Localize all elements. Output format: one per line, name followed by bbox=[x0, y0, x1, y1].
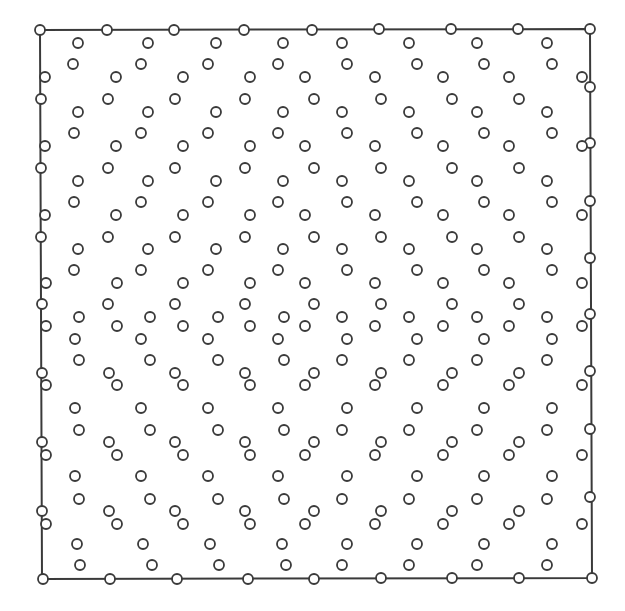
interior-point bbox=[577, 210, 587, 220]
interior-point bbox=[412, 197, 422, 207]
interior-point bbox=[370, 210, 380, 220]
interior-point bbox=[70, 471, 80, 481]
interior-point bbox=[547, 265, 557, 275]
interior-point bbox=[143, 107, 153, 117]
interior-point bbox=[300, 141, 310, 151]
interior-point bbox=[342, 539, 352, 549]
interior-point bbox=[309, 163, 319, 173]
interior-point bbox=[278, 38, 288, 48]
boundary-point-right bbox=[585, 492, 595, 502]
interior-point bbox=[342, 59, 352, 69]
boundary-point-bottom bbox=[309, 574, 319, 584]
interior-point bbox=[577, 72, 587, 82]
interior-point bbox=[447, 437, 457, 447]
interior-point bbox=[178, 72, 188, 82]
interior-point bbox=[404, 560, 414, 570]
interior-point bbox=[472, 425, 482, 435]
interior-point bbox=[412, 265, 422, 275]
interior-point bbox=[504, 210, 514, 220]
interior-point bbox=[342, 265, 352, 275]
interior-point bbox=[72, 539, 82, 549]
interior-point bbox=[376, 368, 386, 378]
interior-point bbox=[74, 425, 84, 435]
interior-point bbox=[69, 128, 79, 138]
interior-point bbox=[136, 334, 146, 344]
interior-point bbox=[342, 471, 352, 481]
interior-point bbox=[404, 494, 414, 504]
interior-point bbox=[447, 232, 457, 242]
interior-point bbox=[376, 94, 386, 104]
interior-point bbox=[178, 278, 188, 288]
interior-point bbox=[542, 425, 552, 435]
interior-point bbox=[240, 506, 250, 516]
interior-point bbox=[240, 368, 250, 378]
interior-point bbox=[145, 355, 155, 365]
interior-point bbox=[69, 265, 79, 275]
interior-point bbox=[342, 334, 352, 344]
interior-point bbox=[245, 72, 255, 82]
interior-point bbox=[479, 334, 489, 344]
interior-point bbox=[104, 437, 114, 447]
interior-point bbox=[472, 312, 482, 322]
interior-point bbox=[203, 403, 213, 413]
interior-point bbox=[376, 437, 386, 447]
interior-point bbox=[203, 265, 213, 275]
interior-point bbox=[178, 450, 188, 460]
interior-point bbox=[136, 265, 146, 275]
interior-point bbox=[370, 519, 380, 529]
interior-point bbox=[111, 210, 121, 220]
interior-point bbox=[547, 539, 557, 549]
interior-point bbox=[479, 265, 489, 275]
interior-point bbox=[504, 141, 514, 151]
interior-point bbox=[472, 38, 482, 48]
interior-point bbox=[542, 355, 552, 365]
interior-point bbox=[281, 560, 291, 570]
interior-point bbox=[240, 299, 250, 309]
interior-point bbox=[104, 368, 114, 378]
interior-point bbox=[472, 560, 482, 570]
boundary-point-left bbox=[37, 506, 47, 516]
interior-point bbox=[143, 244, 153, 254]
interior-point bbox=[213, 425, 223, 435]
interior-point bbox=[279, 494, 289, 504]
interior-point bbox=[577, 141, 587, 151]
interior-point bbox=[245, 321, 255, 331]
interior-point bbox=[337, 425, 347, 435]
interior-point bbox=[103, 94, 113, 104]
interior-point bbox=[103, 163, 113, 173]
interior-point bbox=[504, 450, 514, 460]
interior-point bbox=[103, 299, 113, 309]
interior-point bbox=[245, 210, 255, 220]
interior-point bbox=[112, 380, 122, 390]
interior-point bbox=[404, 38, 414, 48]
interior-point bbox=[278, 244, 288, 254]
interior-point bbox=[211, 176, 221, 186]
interior-point bbox=[112, 321, 122, 331]
interior-point bbox=[68, 59, 78, 69]
interior-point bbox=[309, 506, 319, 516]
interior-point bbox=[337, 312, 347, 322]
interior-point bbox=[278, 176, 288, 186]
interior-point bbox=[547, 403, 557, 413]
interior-point bbox=[438, 450, 448, 460]
interior-point bbox=[178, 321, 188, 331]
boundary-point-right bbox=[585, 366, 595, 376]
interior-point bbox=[205, 539, 215, 549]
boundary-point-right bbox=[585, 309, 595, 319]
interior-point bbox=[112, 278, 122, 288]
interior-point bbox=[438, 380, 448, 390]
interior-point bbox=[404, 425, 414, 435]
interior-point bbox=[376, 163, 386, 173]
interior-point bbox=[542, 107, 552, 117]
boundary-point-top bbox=[169, 25, 179, 35]
interior-point bbox=[213, 494, 223, 504]
interior-point bbox=[203, 471, 213, 481]
interior-point bbox=[136, 471, 146, 481]
interior-point bbox=[542, 560, 552, 570]
interior-point bbox=[542, 176, 552, 186]
boundary-point-left bbox=[36, 94, 46, 104]
interior-point bbox=[447, 94, 457, 104]
interior-point bbox=[273, 59, 283, 69]
interior-point bbox=[111, 72, 121, 82]
interior-point bbox=[309, 94, 319, 104]
